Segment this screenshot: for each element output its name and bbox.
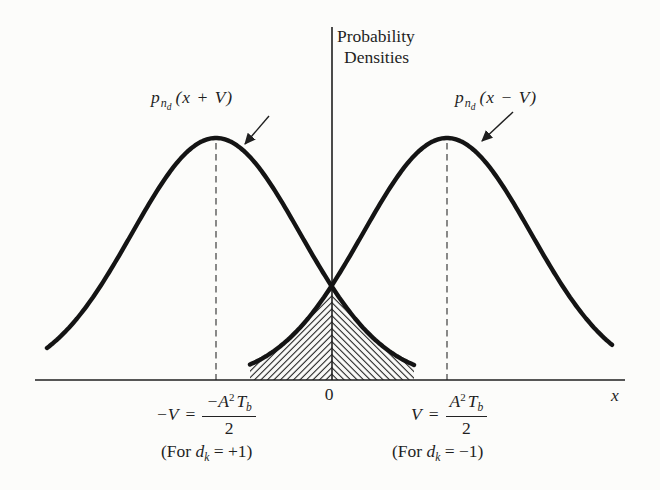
right-threshold-fraction: A2Tb 2 bbox=[446, 391, 488, 439]
overlap-region-left-hatch bbox=[250, 285, 332, 380]
right-condition-label: (For dk = −1) bbox=[392, 441, 483, 465]
left-condition-suffix: = +1) bbox=[209, 441, 252, 461]
right-curve-label: pnd(x − V) bbox=[455, 87, 537, 113]
left-condition-var: d bbox=[196, 441, 205, 461]
right-condition-var: d bbox=[427, 441, 436, 461]
right-label-arrow bbox=[482, 112, 513, 141]
right-condition-prefix: (For bbox=[392, 441, 427, 461]
right-curve-label-subsub: d bbox=[471, 102, 476, 112]
left-threshold-lhs: −V bbox=[156, 404, 179, 425]
origin-label: 0 bbox=[321, 384, 337, 405]
probability-density-figure: Probability Densities pnd(x + V) pnd(x −… bbox=[0, 0, 660, 490]
left-threshold-numerator: −A2Tb bbox=[202, 391, 255, 417]
x-axis-label: x bbox=[611, 385, 619, 406]
left-threshold-equals: = bbox=[186, 404, 196, 425]
right-threshold-denominator: 2 bbox=[462, 417, 471, 439]
right-curve-label-arg: (x − V) bbox=[480, 87, 538, 107]
right-num-exponent: 2 bbox=[460, 391, 466, 403]
y-axis-title-line1: Probability bbox=[337, 26, 415, 47]
left-curve-label-arg: (x + V) bbox=[176, 87, 234, 107]
overlap-region-right-hatch bbox=[332, 287, 414, 380]
y-axis-title: Probability Densities bbox=[337, 26, 415, 68]
right-num-T: T bbox=[468, 391, 478, 411]
left-threshold-fraction: −A2Tb 2 bbox=[202, 391, 255, 439]
right-num-subscript: b bbox=[478, 401, 484, 413]
left-label-arrow bbox=[245, 116, 269, 144]
right-threshold-numerator: A2Tb bbox=[446, 391, 488, 417]
left-threshold-formula: −V = −A2Tb 2 bbox=[156, 391, 256, 439]
left-curve-label-subsub: d bbox=[167, 102, 172, 112]
left-curve-label-fn: p bbox=[151, 87, 161, 107]
right-threshold-equals: = bbox=[429, 404, 439, 425]
right-num-main: A bbox=[450, 391, 461, 411]
left-num-subscript: b bbox=[246, 401, 252, 413]
left-num-main: −A bbox=[206, 391, 229, 411]
diagram-canvas bbox=[0, 0, 660, 490]
right-curve-label-fn: p bbox=[455, 87, 465, 107]
right-threshold-formula: V = A2Tb 2 bbox=[411, 391, 487, 439]
right-threshold-lhs: V bbox=[411, 404, 422, 425]
left-num-exponent: 2 bbox=[229, 391, 235, 403]
y-axis-title-line2: Densities bbox=[337, 47, 415, 68]
left-threshold-denominator: 2 bbox=[225, 417, 234, 439]
left-num-T: T bbox=[236, 391, 246, 411]
left-curve-label: pnd(x + V) bbox=[151, 87, 233, 113]
left-condition-prefix: (For bbox=[161, 441, 196, 461]
right-condition-suffix: = −1) bbox=[440, 441, 483, 461]
left-condition-label: (For dk = +1) bbox=[161, 441, 252, 465]
